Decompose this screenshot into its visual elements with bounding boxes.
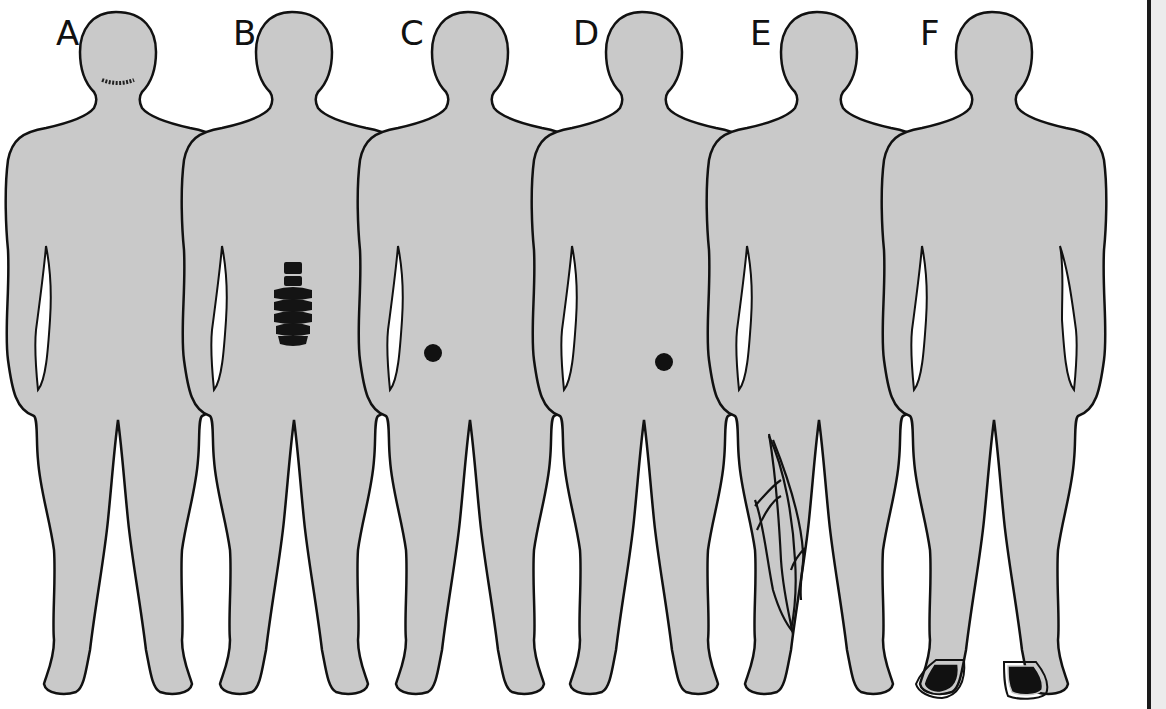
panel-label-f: F [920,16,940,50]
feet-marker [916,660,1047,699]
right-groin-dot-marker [424,344,442,362]
body-panel-f [882,12,1107,699]
panel-label-d: D [573,16,599,50]
silhouettes-svg [0,0,1150,709]
panel-label-e: E [750,16,771,50]
panel-label-c: C [400,16,424,50]
page-edge-strip [1151,0,1166,709]
panel-label-b: B [233,16,256,50]
left-groin-dot-marker [655,353,673,371]
body-figure-diagram: A B C D E F [0,0,1150,709]
panel-label-a: A [56,16,79,50]
